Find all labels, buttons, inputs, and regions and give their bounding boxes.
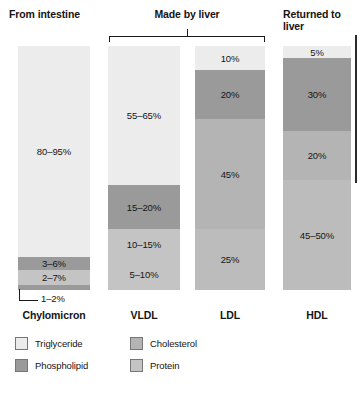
callout-chylomicron-protein: 1–2% [19, 289, 105, 307]
stacked-bar-hdl: 5%30%20%45–50% [283, 46, 351, 290]
segment-value-label: 80–95% [37, 146, 71, 157]
segment-ldl-protein: 25% [195, 229, 265, 290]
callout-label: 1–2% [41, 293, 65, 304]
segment-value-label: 5–10% [129, 269, 158, 280]
segment-chylomicron-phospholipid: 3–6% [18, 257, 90, 270]
column-label-ldl: LDL [195, 309, 265, 321]
column-label-chylomicron: Chylomicron [14, 309, 94, 321]
segment-vldl-cholesterol: 10–15% [108, 229, 180, 260]
segment-value-label: 25% [221, 254, 240, 265]
segment-value-label: 20% [221, 89, 240, 100]
segment-chylomicron-triglyceride: 80–95% [18, 46, 90, 257]
segment-value-label: 10–15% [127, 239, 161, 250]
group-header-made-by-liver: Made by liver [108, 8, 266, 20]
segment-hdl-cholesterol: 20% [283, 131, 351, 180]
segment-vldl-protein: 5–10% [108, 260, 180, 291]
segment-hdl-phospholipid: 30% [283, 58, 351, 131]
column-label-hdl: HDL [283, 309, 351, 321]
segment-value-label: 5% [310, 47, 324, 58]
legend-label-cholesterol: Cholesterol [150, 338, 197, 349]
legend-item-protein: Protein [130, 357, 179, 374]
legend-swatch-triglyceride [15, 337, 28, 350]
segment-ldl-triglyceride: 10% [195, 46, 265, 70]
segment-hdl-triglyceride: 5% [283, 46, 351, 58]
legend-item-phospholipid: Phospholipid [15, 357, 88, 374]
legend: Triglyceride Phospholipid Cholesterol Pr… [15, 335, 245, 381]
bracket-tick-right [264, 36, 265, 42]
legend-item-triglyceride: Triglyceride [15, 335, 83, 352]
group-header-from-intestine: From intestine [9, 8, 113, 20]
group-header-returned-to-liver: Returned to liver [283, 8, 359, 32]
legend-item-cholesterol: Cholesterol [130, 335, 197, 352]
lipoprotein-composition-figure: From intestine Made by liver Returned to… [0, 0, 361, 394]
segment-hdl-protein: 45–50% [283, 180, 351, 290]
segment-vldl-triglyceride: 55–65% [108, 46, 180, 185]
segment-vldl-phospholipid: 15–20% [108, 185, 180, 229]
bracket-stem [187, 29, 188, 36]
stacked-bar-ldl: 10%20%45%25% [195, 46, 265, 290]
segment-value-label: 45–50% [300, 230, 334, 241]
segment-value-label: 30% [308, 89, 327, 100]
stacked-bar-chylomicron: 80–95%3–6%2–7% [18, 46, 90, 290]
page-edge-rule [355, 35, 357, 183]
legend-label-phospholipid: Phospholipid [35, 360, 88, 371]
legend-swatch-phospholipid [15, 359, 28, 372]
callout-leader-horizontal [19, 300, 38, 301]
bracket-tick-left [109, 36, 110, 42]
segment-ldl-phospholipid: 20% [195, 70, 265, 119]
segment-value-label: 3–6% [42, 258, 66, 269]
segment-value-label: 45% [221, 169, 240, 180]
legend-swatch-protein [130, 359, 143, 372]
segment-ldl-cholesterol: 45% [195, 119, 265, 229]
segment-value-label: 2–7% [42, 272, 66, 283]
legend-label-triglyceride: Triglyceride [35, 338, 83, 349]
legend-swatch-cholesterol [130, 337, 143, 350]
bracket-bar [109, 36, 265, 37]
segment-chylomicron-cholesterol: 2–7% [18, 270, 90, 285]
segment-value-label: 15–20% [127, 202, 161, 213]
made-by-liver-bracket [109, 29, 265, 42]
stacked-bar-vldl: 55–65%15–20%10–15%5–10% [108, 46, 180, 290]
column-label-vldl: VLDL [108, 309, 180, 321]
segment-value-label: 55–65% [127, 110, 161, 121]
legend-label-protein: Protein [150, 360, 179, 371]
segment-value-label: 20% [308, 150, 327, 161]
segment-value-label: 10% [221, 53, 240, 64]
